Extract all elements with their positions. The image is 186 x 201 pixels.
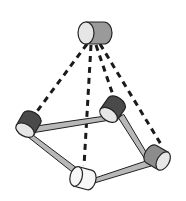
rod-front-right-front — [89, 160, 151, 184]
cylinder-face — [78, 22, 94, 44]
network-diagram — [0, 0, 186, 201]
node-hub — [78, 22, 112, 44]
dashed-link-hub-left — [35, 44, 87, 114]
dashed-link-hub-back-right — [96, 45, 114, 98]
dashed-link-hub-front — [84, 45, 91, 166]
node-left — [13, 108, 43, 141]
